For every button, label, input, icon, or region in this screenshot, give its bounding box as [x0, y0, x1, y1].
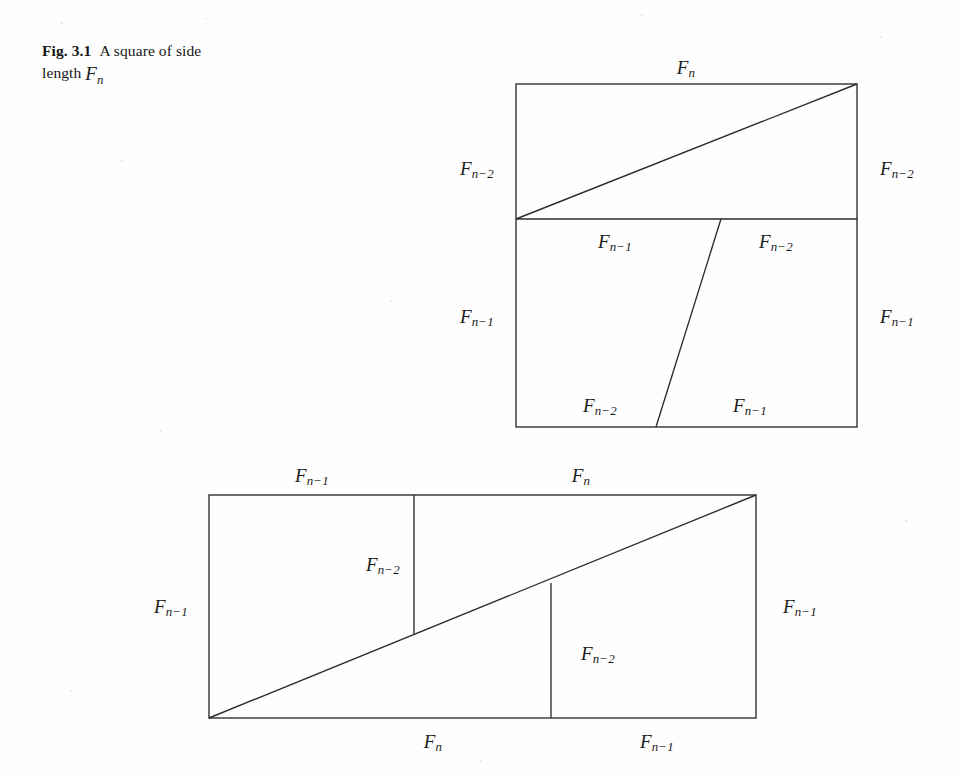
- label-top-square-lower-left: Fn−1: [460, 307, 494, 330]
- label-bottom-rect-bottom-right: Fn−1: [640, 732, 674, 755]
- label-bottom-rect-bottom-left: Fn: [424, 732, 442, 755]
- scan-speckle: [160, 430, 162, 432]
- scan-speckle: [480, 760, 482, 762]
- top-square-slant: [656, 219, 721, 427]
- scan-speckle: [640, 14, 643, 16]
- label-bottom-rect-inner-lower: Fn−2: [581, 644, 615, 667]
- scan-speckle: [60, 22, 63, 24]
- label-bottom-rect-top-left: Fn−1: [295, 466, 329, 489]
- label-bottom-rect-side-left: Fn−1: [154, 597, 188, 620]
- label-bottom-rect-side-right: Fn−1: [783, 597, 817, 620]
- figure-linework: [0, 0, 962, 776]
- scan-speckle: [120, 160, 123, 162]
- figure-page: Fig. 3.1 A square of sidelength Fn Fn Fn…: [0, 0, 962, 776]
- top-square-shape: [516, 84, 857, 427]
- label-bottom-rect-inner-upper: Fn−2: [366, 555, 400, 578]
- top-square-outline: [516, 84, 857, 427]
- scan-speckle: [300, 215, 302, 217]
- label-bottom-rect-top-right: Fn: [572, 466, 590, 489]
- label-top-square-bottom-left: Fn−2: [583, 396, 617, 419]
- scan-speckle: [390, 300, 392, 302]
- scan-speckle: [205, 18, 207, 20]
- label-top-square-upper-right: Fn−2: [880, 159, 914, 182]
- scan-speckle: [905, 520, 908, 522]
- label-top-square-mid-right: Fn−2: [759, 232, 793, 255]
- label-top-square-upper-left: Fn−2: [460, 159, 494, 182]
- bottom-rectangle-diagonal: [209, 495, 756, 718]
- label-top-square-mid-left: Fn−1: [598, 232, 632, 255]
- label-top-square-bottom-right: Fn−1: [733, 396, 767, 419]
- label-top-square-lower-right: Fn−1: [880, 307, 914, 330]
- label-top-square-top: Fn: [677, 58, 695, 81]
- scan-speckle: [880, 36, 882, 38]
- bottom-rectangle-shape: [209, 495, 756, 718]
- scan-speckle: [70, 690, 72, 692]
- top-square-diagonal: [516, 84, 857, 219]
